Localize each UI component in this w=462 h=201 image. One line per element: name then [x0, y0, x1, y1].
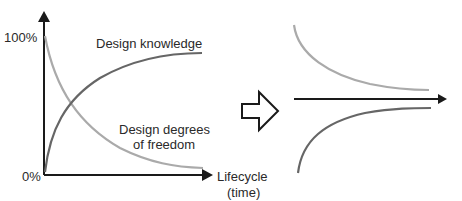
upper-converging-curve: [294, 25, 429, 90]
x-axis-label-line2: (time): [227, 185, 260, 200]
y-axis-top-label: 100%: [4, 30, 38, 45]
design-knowledge-label: Design knowledge: [96, 36, 202, 51]
design-freedom-label-line2: of freedom: [133, 137, 195, 152]
diagram-canvas: 100% 0% Design knowledge Design degrees …: [0, 0, 462, 201]
block-right-arrow-icon: [242, 92, 278, 130]
design-freedom-label-line1: Design degrees: [119, 122, 211, 137]
lower-converging-curve: [298, 108, 431, 173]
left-chart: 100% 0% Design knowledge Design degrees …: [4, 11, 268, 200]
right-diagram: [294, 25, 447, 173]
y-axis-bottom-label: 0%: [22, 169, 41, 184]
x-axis-label-line1: Lifecycle: [217, 169, 268, 184]
y-axis-arrowhead-icon: [38, 11, 50, 22]
x-axis-arrowhead-icon: [202, 169, 213, 181]
horizontal-axis-arrowhead-icon: [438, 94, 447, 104]
design-knowledge-curve: [45, 53, 202, 172]
